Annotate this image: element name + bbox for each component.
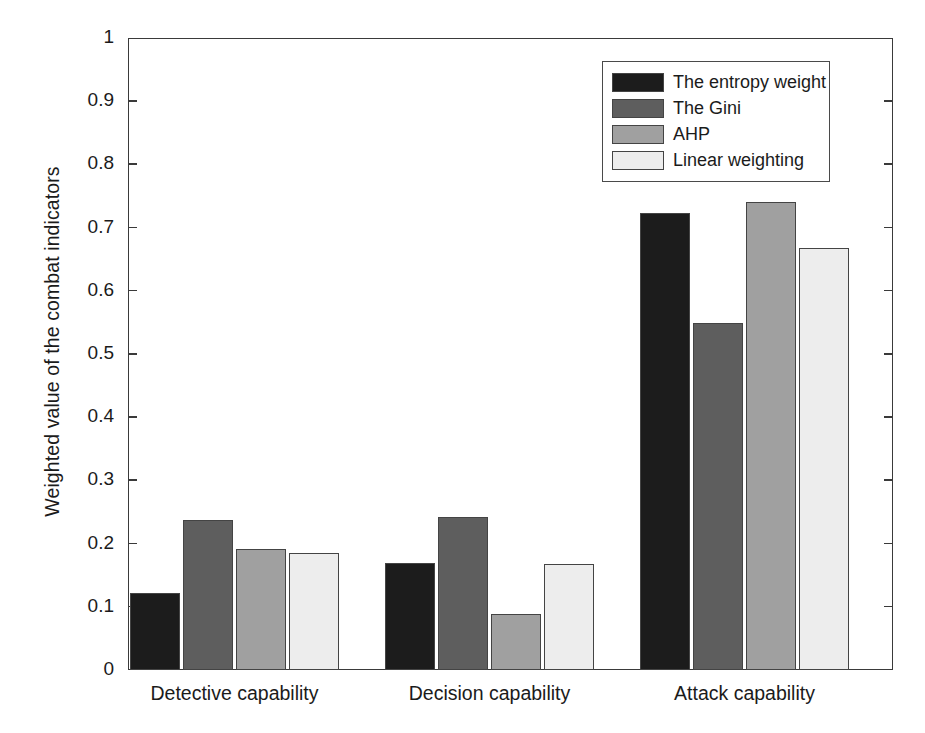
bar xyxy=(491,614,541,670)
legend-item: The Gini xyxy=(612,95,821,121)
y-tick-label: 0.2 xyxy=(24,532,114,554)
y-tick-label: 0.6 xyxy=(24,279,114,301)
legend-swatch-ahp xyxy=(612,125,664,144)
y-tick-label: 0 xyxy=(24,658,114,680)
y-tick-label: 0.8 xyxy=(24,152,114,174)
bar xyxy=(236,549,286,670)
y-tick-label: 0.7 xyxy=(24,216,114,238)
y-tick-label: 0.1 xyxy=(24,595,114,617)
y-tick-label: 0.3 xyxy=(24,468,114,490)
bar xyxy=(746,202,796,670)
bar xyxy=(385,563,435,670)
x-axis-label: Attack capability xyxy=(674,682,815,705)
x-axis-label: Detective capability xyxy=(151,682,319,705)
bar xyxy=(799,248,849,670)
legend-swatch-the-gini xyxy=(612,99,664,118)
legend-label-the-gini: The Gini xyxy=(673,98,741,119)
legend-label-the-entropy-weight: The entropy weight xyxy=(673,72,826,93)
legend: The entropy weight The Gini AHP Linear w… xyxy=(602,61,830,182)
legend-label-ahp: AHP xyxy=(673,124,710,145)
bar xyxy=(693,323,743,670)
legend-swatch-linear-weighting xyxy=(612,151,664,170)
bar xyxy=(130,593,180,670)
legend-item: Linear weighting xyxy=(612,147,821,173)
y-tick-label: 1 xyxy=(24,26,114,48)
legend-label-linear-weighting: Linear weighting xyxy=(673,150,804,171)
legend-swatch-the-entropy-weight xyxy=(612,73,664,92)
y-tick-label: 0.4 xyxy=(24,405,114,427)
x-axis-label: Decision capability xyxy=(409,682,571,705)
bar xyxy=(544,564,594,670)
bar xyxy=(183,520,233,670)
bar xyxy=(438,517,488,670)
legend-item: The entropy weight xyxy=(612,69,821,95)
bar xyxy=(640,213,690,670)
y-tick-label: 0.9 xyxy=(24,89,114,111)
y-tick-label: 0.5 xyxy=(24,342,114,364)
legend-item: AHP xyxy=(612,121,821,147)
bar-chart-figure: Weighted value of the combat indicators … xyxy=(0,0,925,733)
bar xyxy=(289,553,339,670)
